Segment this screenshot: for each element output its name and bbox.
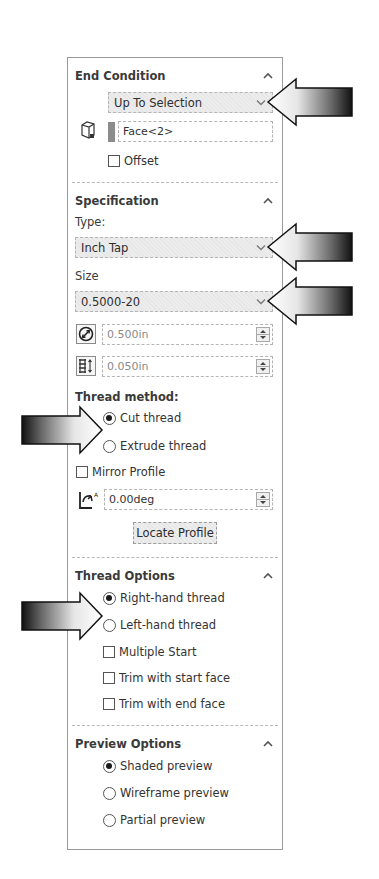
trim-start-face-label: Trim with start face [119, 671, 230, 685]
rotation-angle-icon: A [78, 490, 100, 510]
extrude-thread-radio[interactable]: Extrude thread [103, 439, 206, 453]
face-selection-box[interactable]: Face<2> [118, 121, 273, 142]
checkbox-icon [76, 466, 88, 478]
collapse-caret-icon[interactable] [262, 196, 274, 206]
specification-section: Specification Type: Inch Tap Size 0.5000… [68, 182, 282, 562]
trim-end-face-label: Trim with end face [119, 697, 225, 711]
radio-icon [103, 440, 116, 453]
checkbox-icon [103, 646, 115, 658]
end-condition-section: End Condition Up To Selection Face<2> Of… [68, 58, 282, 178]
offset-label: Offset [124, 154, 159, 168]
partial-preview-label: Partial preview [120, 813, 205, 827]
callout-arrow-size-icon [266, 276, 354, 326]
pitch-icon [77, 357, 95, 375]
offset-checkbox[interactable]: Offset [108, 154, 159, 168]
radio-selected-icon [103, 760, 116, 773]
callout-arrow-end-condition-icon [266, 77, 354, 127]
thread-type-value: Inch Tap [81, 241, 128, 255]
multiple-start-label: Multiple Start [119, 645, 196, 659]
cut-thread-label: Cut thread [120, 411, 181, 425]
thread-size-value: 0.5000-20 [81, 295, 140, 309]
size-label: Size [75, 269, 99, 283]
diameter-override-button[interactable] [76, 324, 96, 344]
right-hand-thread-label: Right-hand thread [120, 591, 225, 605]
checkbox-icon [103, 672, 115, 684]
radio-icon [103, 787, 116, 800]
thread-method-label: Thread method: [75, 390, 179, 404]
radio-icon [103, 814, 116, 827]
shaded-preview-label: Shaded preview [120, 759, 212, 773]
svg-text:A: A [94, 491, 99, 498]
end-condition-value: Up To Selection [114, 96, 202, 110]
radio-selected-icon [103, 412, 116, 425]
cut-thread-radio[interactable]: Cut thread [103, 411, 181, 425]
trim-end-face-checkbox[interactable]: Trim with end face [103, 697, 225, 711]
callout-arrow-cut-thread-icon [20, 405, 104, 455]
thread-options-title: Thread Options [75, 569, 175, 583]
angle-spinner[interactable] [256, 492, 270, 507]
shaded-preview-radio[interactable]: Shaded preview [103, 759, 212, 773]
partial-preview-radio[interactable]: Partial preview [103, 813, 205, 827]
preview-options-title: Preview Options [75, 737, 181, 751]
extrude-thread-label: Extrude thread [120, 439, 206, 453]
mirror-profile-checkbox[interactable]: Mirror Profile [76, 465, 165, 479]
preview-options-section: Preview Options Shaded preview Wireframe… [68, 725, 282, 845]
checkbox-icon [108, 155, 120, 167]
type-label: Type: [75, 215, 105, 229]
locate-profile-button[interactable]: Locate Profile [133, 522, 217, 544]
angle-value: 0.00deg [109, 493, 154, 506]
wireframe-preview-radio[interactable]: Wireframe preview [103, 786, 229, 800]
angle-input[interactable]: 0.00deg [104, 489, 273, 510]
diameter-value: 0.500in [107, 328, 149, 341]
multiple-start-checkbox[interactable]: Multiple Start [103, 645, 196, 659]
screenshot-stage: End Condition Up To Selection Face<2> Of… [0, 0, 379, 879]
callout-arrow-type-icon [266, 222, 354, 272]
callout-arrow-right-hand-thread-icon [20, 591, 104, 641]
radio-icon [103, 619, 116, 632]
wireframe-preview-label: Wireframe preview [120, 786, 229, 800]
collapse-caret-icon[interactable] [262, 571, 274, 581]
pitch-override-button[interactable] [76, 356, 96, 376]
pitch-spinner[interactable] [256, 359, 270, 374]
left-hand-thread-radio[interactable]: Left-hand thread [103, 618, 216, 632]
diameter-icon [77, 325, 95, 343]
chevron-down-icon [256, 298, 266, 305]
right-hand-thread-radio[interactable]: Right-hand thread [103, 591, 225, 605]
face-color-swatch [108, 122, 115, 142]
pitch-input[interactable]: 0.050in [102, 356, 273, 377]
chevron-down-icon [256, 244, 266, 251]
thread-type-dropdown[interactable]: Inch Tap [75, 237, 273, 258]
radio-selected-icon [103, 592, 116, 605]
chevron-down-icon [256, 99, 266, 106]
specification-title: Specification [75, 194, 159, 208]
end-condition-dropdown[interactable]: Up To Selection [108, 92, 273, 113]
collapse-caret-icon[interactable] [262, 739, 274, 749]
diameter-spinner[interactable] [256, 327, 270, 342]
locate-profile-label: Locate Profile [136, 526, 214, 540]
pitch-value: 0.050in [107, 360, 149, 373]
face-selection-value: Face<2> [123, 125, 173, 138]
mirror-profile-label: Mirror Profile [92, 465, 165, 479]
left-hand-thread-label: Left-hand thread [120, 618, 216, 632]
diameter-input[interactable]: 0.500in [102, 324, 273, 345]
trim-start-face-checkbox[interactable]: Trim with start face [103, 671, 230, 685]
face-select-icon [79, 120, 97, 140]
thread-size-dropdown[interactable]: 0.5000-20 [75, 291, 273, 312]
end-condition-title: End Condition [75, 69, 166, 83]
checkbox-icon [103, 698, 115, 710]
